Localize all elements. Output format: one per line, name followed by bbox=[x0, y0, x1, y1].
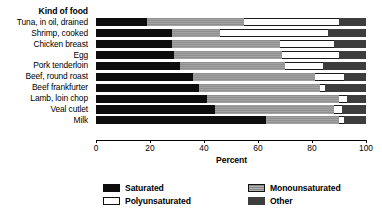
category-label-column: Kind of food Tuna, in oil, drained Shrim… bbox=[0, 6, 92, 126]
bar-segment-poly bbox=[339, 95, 347, 103]
legend-item-saturated: Saturated bbox=[103, 183, 164, 193]
bar-segment-mono bbox=[172, 40, 280, 48]
x-axis-title: Percent bbox=[96, 155, 367, 165]
bar-segment-poly bbox=[220, 29, 328, 37]
x-tick-label: 20 bbox=[145, 143, 154, 153]
legend-label-polyunsaturated: Polyunsaturated bbox=[125, 196, 191, 206]
chart-legend: Saturated Polyunsaturated Monounsaturate… bbox=[103, 183, 373, 213]
category-label-tuna: Tuna, in oil, drained bbox=[0, 17, 92, 28]
category-label-pork-tenderloin: Pork tenderloin bbox=[0, 60, 92, 71]
stacked-bar[interactable] bbox=[96, 116, 366, 124]
category-label-beef-round-roast: Beef, round roast bbox=[0, 71, 92, 82]
bar-row bbox=[96, 28, 366, 39]
bar-segment-mono bbox=[180, 62, 285, 70]
bar-segment-mono bbox=[147, 18, 244, 26]
category-label-beef-frankfurter: Beef frankfurter bbox=[0, 82, 92, 93]
category-label-veal-cutlet: Veal cutlet bbox=[0, 104, 92, 115]
bar-segment-other bbox=[339, 51, 366, 59]
bar-segment-sat bbox=[96, 40, 172, 48]
legend-item-other: Other bbox=[248, 196, 292, 206]
bar-row bbox=[96, 71, 366, 82]
bar-row bbox=[96, 104, 366, 115]
bar-row bbox=[96, 93, 366, 104]
legend-swatch-polyunsaturated-icon bbox=[103, 197, 120, 205]
bar-row bbox=[96, 60, 366, 71]
legend-label-saturated: Saturated bbox=[125, 183, 164, 193]
x-tick-label: 0 bbox=[94, 143, 99, 153]
bar-segment-mono bbox=[172, 29, 221, 37]
bar-segment-other bbox=[323, 62, 366, 70]
x-axis-line bbox=[96, 140, 367, 141]
bar-segment-sat bbox=[96, 116, 266, 124]
bar-segment-sat bbox=[96, 84, 199, 92]
bar-segment-other bbox=[334, 40, 366, 48]
bar-segment-poly bbox=[280, 40, 334, 48]
x-tick-label: 80 bbox=[307, 143, 316, 153]
category-axis-title: Kind of food bbox=[0, 6, 92, 17]
bar-segment-other bbox=[328, 29, 366, 37]
bar-row bbox=[96, 39, 366, 50]
category-label-shrimp: Shrimp, cooked bbox=[0, 28, 92, 39]
bar-segment-mono bbox=[174, 51, 282, 59]
category-label-lamb-loin-chop: Lamb, loin chop bbox=[0, 93, 92, 104]
bar-segment-other bbox=[344, 116, 366, 124]
bar-segment-other bbox=[347, 95, 366, 103]
stacked-bar[interactable] bbox=[96, 62, 366, 70]
legend-swatch-other-icon bbox=[248, 197, 265, 205]
x-tick-label: 40 bbox=[199, 143, 208, 153]
bar-segment-poly bbox=[244, 18, 339, 26]
bar-segment-sat bbox=[96, 51, 174, 59]
legend-label-monounsaturated: Monounsaturated bbox=[270, 183, 341, 193]
bar-segment-mono bbox=[199, 84, 321, 92]
bar-segment-poly bbox=[282, 51, 339, 59]
legend-label-other: Other bbox=[270, 196, 292, 206]
stacked-bar[interactable] bbox=[96, 105, 366, 113]
stacked-bar[interactable] bbox=[96, 84, 366, 92]
bar-segment-sat bbox=[96, 62, 180, 70]
bar-row bbox=[96, 50, 366, 61]
bar-segment-mono bbox=[215, 105, 334, 113]
bar-segment-sat bbox=[96, 95, 207, 103]
category-label-chicken-breast: Chicken breast bbox=[0, 39, 92, 50]
bar-segment-other bbox=[344, 73, 366, 81]
legend-item-monounsaturated: Monounsaturated bbox=[248, 183, 341, 193]
x-tick-label: 100 bbox=[359, 143, 373, 153]
bar-segment-other bbox=[342, 105, 366, 113]
bar-segment-sat bbox=[96, 105, 215, 113]
stacked-bar[interactable] bbox=[96, 51, 366, 59]
bar-segment-poly bbox=[315, 73, 345, 81]
stacked-bar[interactable] bbox=[96, 29, 366, 37]
bar-segment-poly bbox=[334, 105, 342, 113]
category-label-egg: Egg bbox=[0, 50, 92, 61]
bar-segment-other bbox=[339, 18, 366, 26]
stacked-bar[interactable] bbox=[96, 95, 366, 103]
stacked-bar[interactable] bbox=[96, 18, 366, 26]
bar-segment-sat bbox=[96, 18, 147, 26]
legend-swatch-saturated-icon bbox=[103, 184, 120, 192]
bar-row bbox=[96, 17, 366, 28]
bar-segment-sat bbox=[96, 29, 172, 37]
bar-segment-mono bbox=[193, 73, 315, 81]
bar-segment-other bbox=[325, 84, 366, 92]
stacked-bar-chart: Kind of food Tuna, in oil, drained Shrim… bbox=[0, 0, 382, 219]
bar-segment-mono bbox=[266, 116, 339, 124]
bar-row-spacer bbox=[96, 6, 366, 17]
bar-segment-sat bbox=[96, 73, 193, 81]
x-tick-label: 60 bbox=[253, 143, 262, 153]
legend-swatch-monounsaturated-icon bbox=[248, 184, 265, 192]
legend-item-polyunsaturated: Polyunsaturated bbox=[103, 196, 191, 206]
stacked-bar[interactable] bbox=[96, 73, 366, 81]
bar-segment-mono bbox=[207, 95, 339, 103]
bar-row bbox=[96, 82, 366, 93]
category-label-milk: Milk bbox=[0, 115, 92, 126]
plot-area bbox=[96, 6, 366, 140]
stacked-bar[interactable] bbox=[96, 40, 366, 48]
bar-row bbox=[96, 115, 366, 126]
bar-segment-poly bbox=[285, 62, 323, 70]
